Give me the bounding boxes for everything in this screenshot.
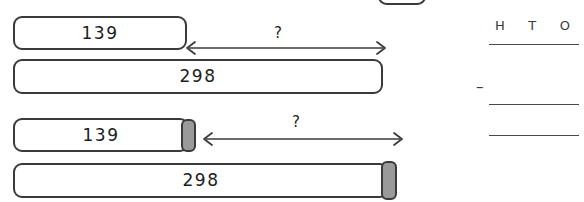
- top-whole-bar[interactable]: 298: [13, 59, 383, 94]
- top-difference-arrow: [184, 40, 388, 56]
- hto-header-tens: T: [528, 18, 537, 33]
- bottom-whole-bar-regroup-tab[interactable]: [381, 161, 397, 200]
- bottom-arrow-question-mark: ?: [292, 115, 300, 130]
- top-part-bar[interactable]: 139: [13, 16, 187, 50]
- top-arrow-question-mark: ?: [274, 26, 282, 41]
- bottom-difference-arrow: [201, 131, 405, 147]
- bottom-whole-bar[interactable]: 298: [13, 163, 389, 198]
- column-work-rule-1: [489, 104, 579, 105]
- clipped-bar-stub: [378, 0, 426, 5]
- bottom-part-bar-regroup-tab[interactable]: [181, 119, 196, 152]
- bottom-part-bar[interactable]: 139: [13, 118, 189, 152]
- bottom-part-bar-label: 139: [83, 127, 120, 144]
- worksheet-canvas: 139 298 ? 139 298 ? H T O –: [0, 0, 584, 202]
- hto-header-ones: O: [560, 18, 571, 33]
- bottom-whole-bar-label: 298: [183, 172, 220, 189]
- column-work-rule-2: [489, 135, 579, 136]
- hto-headers: H T O: [495, 18, 571, 33]
- hto-header-rule: [489, 44, 579, 45]
- subtraction-operator: –: [476, 80, 484, 95]
- hto-header-hundreds: H: [495, 18, 506, 33]
- top-part-bar-label: 139: [82, 25, 119, 42]
- top-whole-bar-label: 298: [180, 68, 217, 85]
